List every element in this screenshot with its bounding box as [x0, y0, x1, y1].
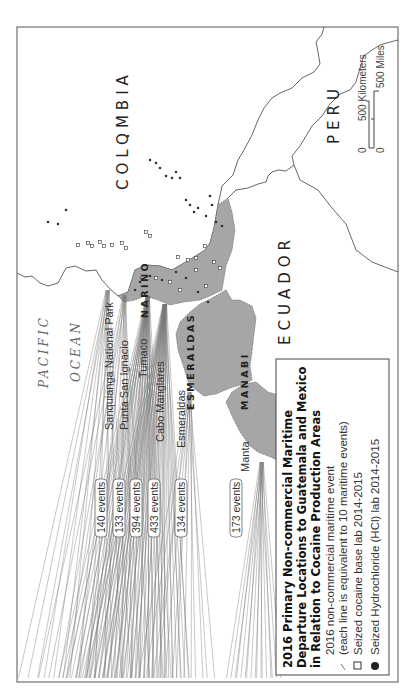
- base-lab-marker: [168, 280, 171, 283]
- place-label-esmeraldas: Esmeraldas: [175, 389, 187, 448]
- place-label-sanquianga: Sanquianga National Park: [103, 302, 115, 430]
- hcl-lab-marker: [215, 221, 218, 224]
- event-count: 394 events: [130, 482, 142, 533]
- base-lab-marker: [144, 230, 147, 233]
- event-count: 140 events: [95, 482, 107, 533]
- hcl-lab-marker: [211, 204, 214, 207]
- legend: 2016 Primary Non-commercial Maritime Dep…: [276, 359, 389, 675]
- legend-line-item-1: 2016 non-commercial maritime event: [324, 465, 336, 655]
- event-badge: 433 events: [148, 479, 160, 537]
- ocean-label-pacific: PACIFIC: [37, 315, 51, 389]
- country-label-peru: PERU: [325, 84, 343, 144]
- place-label-manta: Manta: [239, 441, 251, 472]
- base-lab-marker: [178, 288, 181, 291]
- base-lab-marker: [218, 266, 221, 269]
- base-lab-marker: [154, 276, 157, 279]
- event-badge: 173 events: [230, 479, 242, 537]
- scale-mi-zero: 0: [375, 147, 386, 153]
- legend-base-lab: Seized cocaine base lab 2014-2015: [352, 472, 364, 655]
- base-lab-marker: [120, 241, 123, 244]
- base-lab-marker: [110, 243, 113, 246]
- ocean-label-ocean: OCEAN: [69, 320, 83, 382]
- hcl-lab-marker: [197, 291, 200, 294]
- department-label-manabi: MANABI: [239, 352, 250, 410]
- hcl-lab-marker: [171, 177, 174, 180]
- hcl-lab-marker: [155, 162, 158, 165]
- place-label-tumaco: Tumaco: [137, 339, 149, 378]
- map-canvas: COLOMBIA ECUADOR PERU PACIFIC OCEAN NARI…: [0, 0, 410, 695]
- base-lab-marker: [102, 244, 105, 247]
- base-lab-marker: [204, 284, 207, 287]
- scale-mi-label: 500 Miles: [375, 45, 386, 88]
- place-label-punta-san-ignacio: Punta San Ignacio: [118, 340, 130, 430]
- legend-line-item-2: (each line is equivalent to 10 maritime …: [337, 421, 349, 655]
- hcl-lab-marker: [221, 225, 224, 228]
- hcl-lab-marker: [209, 195, 212, 198]
- event-badge: 140 events: [95, 479, 107, 537]
- base-lab-square-icon: [354, 662, 361, 669]
- country-label-colombia: COLOMBIA: [114, 70, 132, 190]
- place-label-cabo-manglares: Cabo Manglares: [154, 361, 166, 442]
- hcl-lab-marker: [189, 204, 192, 207]
- event-count: 134 events: [175, 482, 187, 533]
- hcl-lab-marker: [175, 271, 178, 274]
- hcl-lab-marker: [179, 177, 182, 180]
- hcl-lab-marker: [165, 175, 168, 178]
- legend-title-line-1: 2016 Primary Non-commercial Maritime: [281, 410, 295, 668]
- event-count: 433 events: [148, 482, 160, 533]
- hcl-lab-marker: [65, 209, 68, 212]
- event-count: 173 events: [230, 482, 242, 533]
- hcl-lab-marker: [205, 215, 208, 218]
- event-badge: 133 events: [113, 479, 125, 537]
- base-lab-marker: [124, 246, 127, 249]
- legend-hcl-lab: Seized Hydrochloride (HCl) lab 2014-2015: [369, 439, 381, 655]
- base-lab-marker: [148, 234, 151, 237]
- base-lab-marker: [186, 258, 189, 261]
- department-label-narino: NARIÑO: [139, 261, 150, 318]
- hcl-lab-dot-icon: [371, 662, 379, 670]
- hcl-lab-marker: [159, 167, 162, 170]
- hcl-lab-marker: [197, 207, 200, 210]
- base-lab-marker: [176, 255, 179, 258]
- hcl-lab-marker: [57, 223, 60, 226]
- legend-title-line-3: in Relation to Cocaine Production Areas: [309, 410, 323, 668]
- base-lab-marker: [203, 244, 206, 247]
- base-lab-marker: [90, 244, 93, 247]
- hcl-lab-marker: [175, 171, 178, 174]
- scale-km-zero: 0: [357, 147, 368, 153]
- base-lab-marker: [212, 260, 215, 263]
- hcl-lab-marker: [185, 277, 188, 280]
- base-lab-marker: [194, 256, 197, 259]
- hcl-lab-marker: [149, 159, 152, 162]
- base-lab-marker: [98, 240, 101, 243]
- country-label-ecuador: ECUADOR: [276, 235, 294, 345]
- base-lab-marker: [86, 241, 89, 244]
- hcl-lab-marker: [134, 289, 137, 292]
- base-lab-marker: [76, 243, 79, 246]
- hcl-lab-marker: [47, 221, 50, 224]
- event-count: 133 events: [113, 482, 125, 533]
- hcl-lab-marker: [185, 199, 188, 202]
- hcl-lab-marker: [207, 301, 210, 304]
- base-lab-marker: [194, 268, 197, 271]
- scale-km-label: 500 Kilometers: [357, 54, 368, 121]
- hcl-lab-marker: [161, 279, 164, 282]
- event-badge: 134 events: [175, 479, 187, 537]
- event-badge: 394 events: [130, 479, 142, 537]
- legend-title-line-2: Departure Locations to Guatemala and Mex…: [295, 367, 309, 668]
- hcl-lab-marker: [193, 211, 196, 214]
